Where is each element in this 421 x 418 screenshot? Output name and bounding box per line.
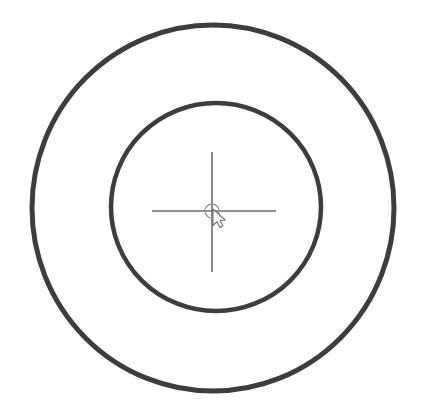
canvas-background <box>0 0 421 418</box>
drawing-canvas: Two concentric dark circles on a white b… <box>0 0 421 418</box>
concentric-circles-scene <box>0 0 421 418</box>
